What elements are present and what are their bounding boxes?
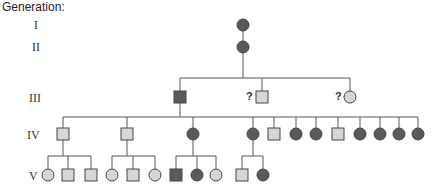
unknown-marker-III-2: ? bbox=[246, 90, 253, 102]
individual-IV-7-affected-female bbox=[310, 128, 322, 140]
unknown-marker-III-3: ? bbox=[335, 90, 342, 102]
individual-IV-12-affected-female bbox=[412, 128, 424, 140]
individual-IV-9-affected-female bbox=[354, 128, 366, 140]
individual-IV-10-affected-female bbox=[374, 128, 386, 140]
individual-II-1-affected-female bbox=[237, 41, 249, 53]
individual-IV-3-affected-female bbox=[187, 128, 199, 140]
individual-III-1-affected-male bbox=[174, 91, 186, 103]
individual-I-1-affected-female bbox=[237, 19, 249, 31]
individual-IV-11-affected-female bbox=[393, 128, 405, 140]
individual-V-6-female bbox=[149, 169, 161, 181]
individual-V-10-male bbox=[236, 169, 248, 181]
individual-IV-8-male bbox=[332, 128, 344, 140]
individual-V-3-male bbox=[85, 169, 97, 181]
individual-V-11-affected-female bbox=[257, 169, 269, 181]
individual-IV-4-affected-female bbox=[247, 128, 259, 140]
individual-III-2-unknown-male bbox=[256, 91, 268, 103]
individual-IV-5-male bbox=[268, 128, 280, 140]
connector-lines bbox=[48, 25, 418, 169]
individual-IV-6-affected-female bbox=[290, 128, 302, 140]
individual-V-1-female bbox=[42, 169, 54, 181]
individual-V-5-male bbox=[127, 169, 139, 181]
individual-V-7-affected-male bbox=[170, 169, 182, 181]
individual-V-2-male bbox=[62, 169, 74, 181]
individual-III-3-unknown-female bbox=[344, 91, 356, 103]
individual-V-4-female bbox=[106, 169, 118, 181]
individual-IV-2-male bbox=[121, 128, 133, 140]
individual-V-9-female bbox=[210, 169, 222, 181]
pedigree-diagram bbox=[0, 0, 433, 194]
individual-IV-1-male bbox=[57, 128, 69, 140]
individual-V-8-affected-female bbox=[191, 169, 203, 181]
